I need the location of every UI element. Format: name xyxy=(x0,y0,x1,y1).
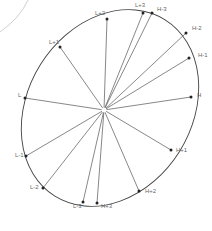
label-l: L xyxy=(18,92,22,98)
label-hplus2: H+2 xyxy=(145,188,157,194)
point-lminus2 xyxy=(42,187,45,190)
point-hplus1 xyxy=(170,149,173,152)
label-hminus1: H-1 xyxy=(198,52,208,58)
spoke-l xyxy=(25,98,104,110)
label-h: H xyxy=(197,92,201,98)
spoke-hminus2 xyxy=(104,33,186,110)
label-hplus1: H+1 xyxy=(176,147,188,153)
spoke-h xyxy=(104,97,191,110)
point-hminus3 xyxy=(151,12,154,15)
point-lminus1 xyxy=(25,155,28,158)
point-h xyxy=(190,96,193,99)
label-lplus2: L+2 xyxy=(95,10,106,16)
spoke-hplus2 xyxy=(104,110,139,191)
spoke-lplus1 xyxy=(60,47,104,110)
label-hminus3: H-3 xyxy=(157,6,167,12)
label-lminus1: L-1 xyxy=(15,152,24,158)
orbital-diagram: L+3H-3L+2H-2L+1H-1LHL-1H+1L-2H+2L-3H+3 xyxy=(0,0,212,231)
point-hplus3 xyxy=(96,202,99,205)
point-l xyxy=(24,97,27,100)
point-hminus1 xyxy=(188,57,191,60)
point-lplus3 xyxy=(142,12,145,15)
label-hminus2: H-2 xyxy=(192,25,202,31)
spoke-hplus1 xyxy=(104,110,171,150)
background-arc xyxy=(0,0,28,32)
point-lminus3 xyxy=(82,201,85,204)
center-gap xyxy=(102,108,107,113)
spoke-lplus2 xyxy=(104,19,107,110)
label-hplus3: H+3 xyxy=(101,203,113,209)
spoke-lplus3 xyxy=(104,13,143,110)
point-lplus2 xyxy=(106,18,109,21)
point-lplus1 xyxy=(59,46,62,49)
label-lplus3: L+3 xyxy=(135,2,146,8)
spoke-lminus1 xyxy=(26,110,104,156)
label-lminus2: L-2 xyxy=(30,184,39,190)
label-lminus3: L-3 xyxy=(73,203,82,209)
label-lplus1: L+1 xyxy=(49,39,60,45)
point-hplus2 xyxy=(138,190,141,193)
point-hminus2 xyxy=(185,32,188,35)
